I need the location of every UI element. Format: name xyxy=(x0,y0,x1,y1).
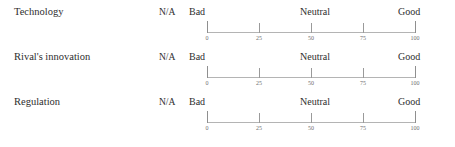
scale-tick-labels: 0 25 50 75 100 xyxy=(207,79,416,88)
tick-label-50: 50 xyxy=(296,124,326,133)
tick-mark-0[interactable] xyxy=(207,21,208,33)
anchor-label-high: Good xyxy=(398,51,420,63)
tick-mark-100[interactable] xyxy=(415,66,416,78)
tick-mark-0[interactable] xyxy=(207,111,208,123)
tick-mark-75[interactable] xyxy=(363,68,364,78)
tick-label-25: 25 xyxy=(244,34,274,43)
anchor-label-low: Bad xyxy=(189,6,205,18)
tick-mark-25[interactable] xyxy=(259,68,260,78)
survey-row: Technology N/A Bad Neutral Good 0 25 50 … xyxy=(0,0,455,45)
tick-mark-25[interactable] xyxy=(259,23,260,33)
scale-axis[interactable] xyxy=(207,111,416,123)
row-item-label: Regulation xyxy=(14,96,60,108)
row-item-label: Rival's innovation xyxy=(14,51,90,63)
survey-rating-grid: Technology N/A Bad Neutral Good 0 25 50 … xyxy=(0,0,455,147)
tick-mark-100[interactable] xyxy=(415,111,416,123)
tick-label-0: 0 xyxy=(192,124,222,133)
tick-label-0: 0 xyxy=(192,34,222,43)
tick-mark-50[interactable] xyxy=(311,68,312,78)
tick-label-75: 75 xyxy=(348,34,378,43)
na-option[interactable]: N/A xyxy=(159,51,181,63)
tick-label-100: 100 xyxy=(400,34,430,43)
row-item-label: Technology xyxy=(14,6,63,18)
anchor-label-high: Good xyxy=(398,6,420,18)
scale-anchor-labels: Bad Neutral Good xyxy=(189,6,434,18)
tick-label-50: 50 xyxy=(296,34,326,43)
anchor-label-low: Bad xyxy=(189,51,205,63)
survey-row: Regulation N/A Bad Neutral Good 0 25 50 … xyxy=(0,90,455,135)
scale-axis[interactable] xyxy=(207,21,416,33)
tick-mark-75[interactable] xyxy=(363,113,364,123)
anchor-label-mid: Neutral xyxy=(300,6,330,18)
tick-label-75: 75 xyxy=(348,79,378,88)
scale-anchor-labels: Bad Neutral Good xyxy=(189,96,434,108)
anchor-label-low: Bad xyxy=(189,96,205,108)
scale-anchor-labels: Bad Neutral Good xyxy=(189,51,434,63)
tick-label-0: 0 xyxy=(192,79,222,88)
tick-label-50: 50 xyxy=(296,79,326,88)
tick-mark-50[interactable] xyxy=(311,23,312,33)
anchor-label-mid: Neutral xyxy=(300,51,330,63)
tick-label-100: 100 xyxy=(400,79,430,88)
anchor-label-high: Good xyxy=(398,96,420,108)
tick-mark-75[interactable] xyxy=(363,23,364,33)
tick-mark-0[interactable] xyxy=(207,66,208,78)
scale-tick-labels: 0 25 50 75 100 xyxy=(207,34,416,43)
na-option[interactable]: N/A xyxy=(159,96,181,108)
scale-tick-labels: 0 25 50 75 100 xyxy=(207,124,416,133)
tick-label-100: 100 xyxy=(400,124,430,133)
rating-scale[interactable]: Bad Neutral Good 0 25 50 75 100 xyxy=(189,45,434,90)
survey-row: Rival's innovation N/A Bad Neutral Good … xyxy=(0,45,455,90)
tick-mark-50[interactable] xyxy=(311,113,312,123)
tick-label-25: 25 xyxy=(244,124,274,133)
scale-axis[interactable] xyxy=(207,66,416,78)
anchor-label-mid: Neutral xyxy=(300,96,330,108)
tick-label-75: 75 xyxy=(348,124,378,133)
na-option[interactable]: N/A xyxy=(159,6,181,18)
rating-scale[interactable]: Bad Neutral Good 0 25 50 75 100 xyxy=(189,90,434,135)
rating-scale[interactable]: Bad Neutral Good 0 25 50 75 100 xyxy=(189,0,434,45)
tick-label-25: 25 xyxy=(244,79,274,88)
tick-mark-100[interactable] xyxy=(415,21,416,33)
tick-mark-25[interactable] xyxy=(259,113,260,123)
